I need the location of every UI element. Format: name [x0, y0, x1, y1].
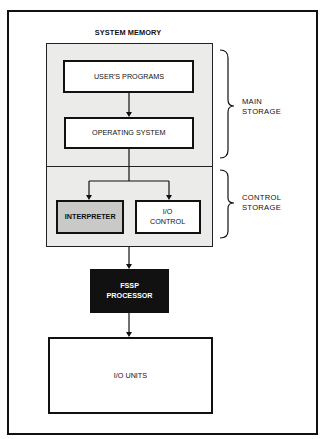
- main-storage-label: MAIN STORAGE: [242, 97, 283, 116]
- arrowhead-io-control: [166, 195, 172, 200]
- arrowhead-fssp: [126, 264, 132, 269]
- main-storage-text: MAIN STORAGE: [242, 97, 281, 116]
- main-storage-brace: [220, 50, 234, 158]
- arrowhead-interpreter: [86, 195, 92, 200]
- control-storage-label: CONTROL STORAGE: [242, 193, 283, 212]
- arrowhead-io-units: [126, 332, 132, 337]
- control-storage-brace: [220, 170, 234, 238]
- control-storage-text: CONTROL STORAGE: [242, 193, 281, 212]
- arrowhead-os: [126, 112, 132, 117]
- connector-lines: [0, 0, 326, 439]
